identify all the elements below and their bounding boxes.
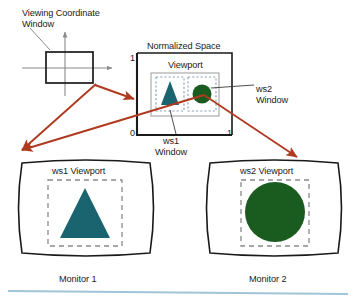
figure-root: Viewing CoordinateWindow Normalized Spac… xyxy=(0,0,356,301)
monitor-1-viewport-label: ws1 Viewport xyxy=(52,166,105,177)
monitor-2-circle-shape xyxy=(245,182,305,242)
ws1-triangle-shape xyxy=(161,81,179,105)
viewport-title: Viewport xyxy=(168,60,203,71)
footer-rule xyxy=(8,291,348,294)
ws1-window-callout: ws1Window xyxy=(155,136,187,158)
viewing-coordinate-window-label-line1: Viewing Coordinate xyxy=(22,8,100,18)
axis-label-bottom-right: 1 xyxy=(227,128,232,139)
ws2-window-callout: ws2Window xyxy=(256,84,288,106)
viewing-coordinate-window-label: Viewing CoordinateWindow xyxy=(22,8,100,30)
viewing-coordinate-leader-line xyxy=(30,28,50,50)
axis-label-top-left: 1 xyxy=(130,53,135,64)
ws1-window-callout-line2: Window xyxy=(155,147,187,157)
monitor-2-caption: Monitor 2 xyxy=(249,274,286,285)
axis-label-bottom-left: 0 xyxy=(130,128,135,139)
ws2-window-callout-line1: ws2 xyxy=(256,84,272,94)
monitor-2-viewport-label: ws2 Viewport xyxy=(240,166,293,177)
ws2-window-callout-line2: Window xyxy=(256,95,288,105)
arrow-vcw-to-normalized xyxy=(95,85,134,99)
viewing-coordinate-window-label-line2: Window xyxy=(22,19,54,29)
ws1-window-callout-line1: ws1 xyxy=(163,136,179,146)
ws1-window-leader-line xyxy=(170,110,176,134)
monitor-1-caption: Monitor 1 xyxy=(59,274,96,285)
ws2-circle-shape xyxy=(193,85,212,104)
arrow-vcw-to-monitor1 xyxy=(22,84,96,150)
normalized-space-title: Normalized Space xyxy=(147,41,220,52)
